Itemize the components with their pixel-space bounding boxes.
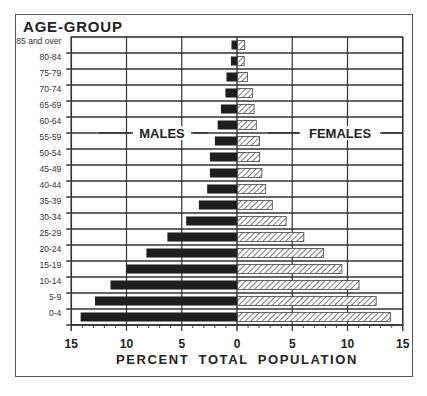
male-bar	[227, 73, 237, 82]
female-bar	[238, 297, 377, 306]
male-bar	[167, 233, 237, 242]
female-bar	[238, 313, 391, 322]
male-bar	[199, 201, 237, 210]
x-tick-label: 0	[234, 337, 241, 351]
age-group-labels: 85 and over80-8475-7970-7465-6960-6455-5…	[16, 36, 61, 318]
female-bar	[238, 121, 257, 130]
age-group-label: 15-19	[40, 260, 62, 270]
age-group-label: 40-44	[40, 180, 62, 190]
male-bar	[210, 153, 237, 162]
female-bar	[238, 265, 342, 274]
age-group-label: 85 and over	[16, 36, 61, 46]
male-bar	[221, 105, 237, 114]
age-group-label: 60-64	[40, 116, 62, 126]
x-tick-label: 5	[178, 337, 185, 351]
male-bar	[231, 41, 237, 50]
age-group-label: 70-74	[40, 84, 62, 94]
age-group-label: 50-54	[40, 148, 62, 158]
male-bar	[215, 137, 237, 146]
x-tick-label: 5	[289, 337, 296, 351]
legend-females: FEMALES	[309, 126, 371, 141]
male-bar	[186, 217, 237, 226]
age-group-label: 25-29	[40, 228, 62, 238]
female-bar	[238, 89, 253, 98]
female-bar	[238, 185, 266, 194]
age-group-label: 75-79	[40, 68, 62, 78]
male-bar	[127, 265, 238, 274]
age-group-label: 65-69	[40, 100, 62, 110]
female-bar	[238, 217, 287, 226]
age-group-label: 0-4	[49, 308, 62, 318]
x-tick-label: 10	[120, 337, 134, 351]
x-tick-label: 10	[341, 337, 355, 351]
age-group-label: 55-59	[40, 132, 62, 142]
female-bar	[238, 137, 260, 146]
age-group-label: 30-34	[40, 212, 62, 222]
male-bar	[146, 249, 237, 258]
male-bar	[81, 313, 237, 322]
female-bar	[238, 201, 273, 210]
female-bar	[238, 153, 260, 162]
female-bar	[238, 105, 255, 114]
age-group-label: 5-9	[49, 292, 62, 302]
age-group-label: 35-39	[40, 196, 62, 206]
male-bar	[95, 297, 237, 306]
male-bar	[231, 57, 237, 66]
female-bar	[238, 169, 262, 178]
legend-males: MALES	[139, 126, 185, 141]
age-group-label: 20-24	[40, 244, 62, 254]
male-bar	[225, 89, 237, 98]
age-group-label: 80-84	[40, 52, 62, 62]
x-axis-label: PERCENT TOTAL POPULATION	[0, 352, 427, 367]
male-bar	[218, 121, 237, 130]
male-bar	[210, 169, 237, 178]
age-group-label: 45-49	[40, 164, 62, 174]
female-bar	[238, 41, 245, 50]
female-bar	[238, 281, 360, 290]
female-bar	[238, 249, 324, 258]
x-tick-label: 15	[65, 337, 79, 351]
female-bar	[238, 57, 245, 66]
male-bar	[110, 281, 237, 290]
age-group-label: 10-14	[40, 276, 62, 286]
population-pyramid-chart: 85 and over80-8475-7970-7465-6960-6455-5…	[0, 0, 427, 396]
x-tick-label: 15	[396, 337, 410, 351]
female-bar	[238, 73, 248, 82]
male-bar	[207, 185, 237, 194]
female-bar	[238, 233, 304, 242]
